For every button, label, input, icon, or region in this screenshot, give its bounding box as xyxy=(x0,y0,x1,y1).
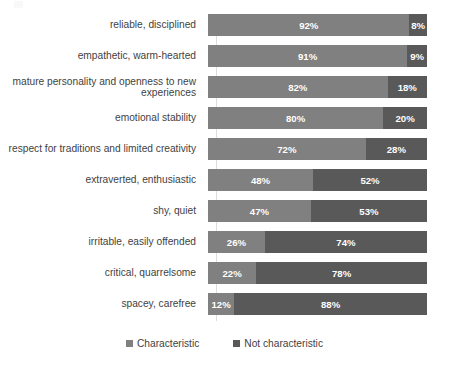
bar-rows: reliable, disciplined92%8%empathetic, wa… xyxy=(0,14,449,324)
bar-segment-not-characteristic: 52% xyxy=(313,169,427,191)
legend-item[interactable]: Not characteristic xyxy=(233,338,323,349)
legend-label: Characteristic xyxy=(137,338,199,349)
bar-segment-not-characteristic: 9% xyxy=(407,45,427,67)
category-label: irritable, easily offended xyxy=(0,236,206,248)
category-label: emotional stability xyxy=(0,112,206,124)
bar-segment-characteristic: 47% xyxy=(208,200,311,222)
stacked-bar: 91%9% xyxy=(208,45,427,67)
bar-segment-not-characteristic: 53% xyxy=(311,200,427,222)
legend-swatch-icon xyxy=(126,340,133,347)
category-label: respect for traditions and limited creat… xyxy=(0,143,206,155)
stacked-bar: 92%8% xyxy=(208,14,427,36)
category-label: extraverted, enthusiastic xyxy=(0,174,206,186)
bar-segment-characteristic: 48% xyxy=(208,169,313,191)
legend-item[interactable]: Characteristic xyxy=(126,338,199,349)
bar-segment-characteristic: 72% xyxy=(208,138,366,160)
bar-row: critical, quarrelsome22%78% xyxy=(0,262,449,284)
bar-segment-characteristic: 80% xyxy=(208,107,383,129)
bar-segment-characteristic: 22% xyxy=(208,262,256,284)
bar-segment-not-characteristic: 74% xyxy=(265,231,427,253)
top-artifact xyxy=(14,1,23,8)
stacked-bar: 47%53% xyxy=(208,200,427,222)
bar-row: empathetic, warm-hearted91%9% xyxy=(0,45,449,67)
category-label: reliable, disciplined xyxy=(0,19,206,31)
bar-row: irritable, easily offended26%74% xyxy=(0,231,449,253)
bar-segment-not-characteristic: 78% xyxy=(256,262,427,284)
bar-segment-characteristic: 82% xyxy=(208,76,388,98)
legend-label: Not characteristic xyxy=(244,338,323,349)
bar-row: emotional stability80%20% xyxy=(0,107,449,129)
bar-segment-not-characteristic: 18% xyxy=(388,76,427,98)
stacked-bar: 82%18% xyxy=(208,76,427,98)
stacked-bar: 80%20% xyxy=(208,107,427,129)
category-label: empathetic, warm-hearted xyxy=(0,50,206,62)
stacked-bar: 48%52% xyxy=(208,169,427,191)
bar-segment-characteristic: 91% xyxy=(208,45,407,67)
bar-segment-not-characteristic: 8% xyxy=(409,14,427,36)
bar-segment-not-characteristic: 28% xyxy=(366,138,427,160)
bar-segment-characteristic: 12% xyxy=(208,293,234,315)
category-label: spacey, carefree xyxy=(0,298,206,310)
bar-row: respect for traditions and limited creat… xyxy=(0,138,449,160)
legend-swatch-icon xyxy=(233,340,240,347)
bar-row: extraverted, enthusiastic48%52% xyxy=(0,169,449,191)
bar-row: mature personality and openness to new e… xyxy=(0,76,449,98)
category-label: mature personality and openness to new e… xyxy=(0,76,206,99)
stacked-bar: 26%74% xyxy=(208,231,427,253)
category-label: shy, quiet xyxy=(0,205,206,217)
plot-area: reliable, disciplined92%8%empathetic, wa… xyxy=(0,14,449,326)
stacked-bar-chart: reliable, disciplined92%8%empathetic, wa… xyxy=(0,0,449,369)
stacked-bar: 12%88% xyxy=(208,293,427,315)
stacked-bar: 22%78% xyxy=(208,262,427,284)
stacked-bar: 72%28% xyxy=(208,138,427,160)
category-label: critical, quarrelsome xyxy=(0,267,206,279)
bar-segment-not-characteristic: 88% xyxy=(234,293,427,315)
bar-row: shy, quiet47%53% xyxy=(0,200,449,222)
bar-row: spacey, carefree12%88% xyxy=(0,293,449,315)
bar-row: reliable, disciplined92%8% xyxy=(0,14,449,36)
bar-segment-characteristic: 26% xyxy=(208,231,265,253)
bar-segment-not-characteristic: 20% xyxy=(383,107,427,129)
bar-segment-characteristic: 92% xyxy=(208,14,409,36)
chart-legend: CharacteristicNot characteristic xyxy=(0,338,449,349)
